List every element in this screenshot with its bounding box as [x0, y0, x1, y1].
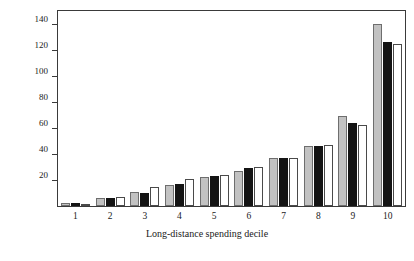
bar	[383, 42, 392, 206]
bar	[279, 158, 288, 206]
bar	[234, 171, 243, 206]
y-axis-tick-mark	[52, 180, 57, 181]
y-axis-tick-mark	[52, 102, 57, 103]
bar-group	[370, 11, 405, 206]
y-axis-tick-mark	[52, 50, 57, 51]
bar	[338, 116, 347, 206]
bar	[140, 193, 149, 206]
bar	[324, 145, 333, 206]
bar	[200, 177, 209, 206]
bar-group	[266, 11, 301, 206]
bar	[220, 175, 229, 206]
y-axis-tick-mark	[52, 76, 57, 77]
bar	[348, 123, 357, 206]
x-axis-label: Long-distance spending decile	[0, 228, 414, 239]
x-axis-tick-label: 10	[368, 211, 408, 221]
bar-group	[93, 11, 128, 206]
bar-series-container	[58, 11, 405, 206]
bar	[393, 44, 402, 207]
bar	[254, 167, 263, 206]
bar-group	[162, 11, 197, 206]
bar-group	[197, 11, 232, 206]
y-axis-tick-mark	[52, 24, 57, 25]
bar-group	[232, 11, 267, 206]
bar	[185, 179, 194, 206]
bar-chart: Canada, 1992 United States, 1996 United …	[0, 0, 414, 261]
bar	[150, 187, 159, 207]
bar-group	[336, 11, 371, 206]
y-axis-tick-mark	[52, 128, 57, 129]
bar	[71, 203, 80, 206]
bar	[269, 158, 278, 206]
bar	[106, 198, 115, 206]
bar	[358, 125, 367, 206]
bar	[96, 198, 105, 206]
bar-group	[127, 11, 162, 206]
bar-group	[58, 11, 93, 206]
bar	[373, 24, 382, 206]
bar	[130, 192, 139, 206]
bar	[175, 184, 184, 206]
bar	[304, 146, 313, 206]
bar	[244, 168, 253, 206]
bar	[61, 203, 70, 206]
bar	[116, 197, 125, 206]
bar	[81, 204, 90, 206]
bar	[165, 185, 174, 206]
bar-group	[301, 11, 336, 206]
bar	[314, 146, 323, 206]
y-axis-tick-mark	[52, 154, 57, 155]
bar	[210, 176, 219, 206]
bar	[289, 158, 298, 206]
